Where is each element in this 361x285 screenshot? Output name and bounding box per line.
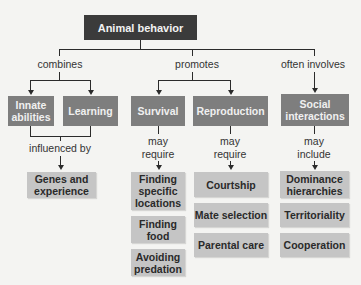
- node-genes-and-experience: Genes and experience: [27, 172, 96, 198]
- connector: [60, 136, 61, 141]
- node-reproduction: Reproduction: [193, 96, 268, 126]
- relation-promotes: promotes: [175, 58, 219, 71]
- connector: [314, 126, 315, 134]
- arrow-icon: [156, 165, 162, 170]
- node-finding-food: Finding food: [131, 216, 185, 243]
- arrow-icon: [88, 90, 94, 95]
- connector: [59, 49, 315, 50]
- connector: [90, 126, 91, 136]
- connector: [192, 72, 193, 80]
- arrow-icon: [228, 165, 234, 170]
- node-mate-selection: Mate selection: [194, 203, 268, 227]
- node-dominance-hierarchies: Dominance hierarchies: [280, 171, 349, 198]
- relation-may-include: may include: [297, 135, 330, 161]
- node-learning: Learning: [63, 96, 118, 126]
- arrow-icon: [228, 90, 234, 95]
- connector: [59, 72, 60, 80]
- relation-combines: combines: [38, 58, 83, 71]
- connector: [230, 80, 231, 90]
- node-cooperation: Cooperation: [280, 233, 349, 257]
- connector: [140, 40, 141, 49]
- connector: [30, 80, 90, 81]
- connector: [30, 80, 31, 90]
- relation-may-require: may require: [214, 135, 247, 161]
- arrow-icon: [312, 165, 318, 170]
- root-node-animal-behavior: Animal behavior: [84, 15, 197, 40]
- relation-may-require: may require: [142, 135, 175, 161]
- node-parental-care: Parental care: [194, 233, 268, 257]
- connector: [90, 80, 91, 90]
- arrow-icon: [58, 165, 64, 170]
- relation-influenced-by: influenced by: [29, 142, 91, 155]
- node-avoiding-predation: Avoiding predation: [131, 249, 185, 276]
- connector: [158, 80, 230, 81]
- arrow-icon: [312, 88, 318, 93]
- node-finding-specific-locations: Finding specific locations: [131, 172, 185, 210]
- connector: [59, 49, 60, 56]
- node-social-interactions: Social interactions: [281, 94, 349, 126]
- connector: [192, 49, 193, 56]
- connector: [230, 126, 231, 134]
- node-survival: Survival: [131, 96, 185, 126]
- connector: [158, 126, 159, 134]
- connector: [158, 80, 159, 90]
- connector: [30, 126, 31, 136]
- connector: [314, 49, 315, 56]
- node-courtship: Courtship: [194, 172, 268, 197]
- relation-often-involves: often involves: [281, 58, 345, 71]
- arrow-icon: [156, 90, 162, 95]
- arrow-icon: [28, 90, 34, 95]
- node-innate-abilities: Innate abilities: [8, 96, 54, 126]
- node-territoriality: Territoriality: [280, 203, 349, 227]
